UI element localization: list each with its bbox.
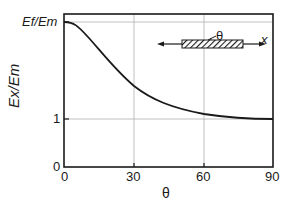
inset-theta-label: θ — [216, 29, 223, 42]
y-tick-1: 1 — [53, 112, 60, 125]
x-tick-0: 0 — [61, 170, 68, 183]
y-top-label: Ef/Em — [22, 15, 57, 28]
x-tick-60: 60 — [196, 170, 210, 183]
chart-canvas — [0, 0, 297, 205]
y-tick-0: 0 — [53, 160, 60, 173]
data-curve — [64, 22, 273, 119]
plot-frame — [64, 14, 273, 167]
fiber-orientation-inset — [157, 36, 266, 48]
y-axis-label: Ex/Em — [6, 64, 21, 108]
inset-x-label: x — [261, 33, 268, 46]
x-tick-90: 90 — [265, 170, 279, 183]
x-axis-label: θ — [162, 186, 170, 200]
gridlines — [64, 14, 273, 167]
x-tick-30: 30 — [126, 170, 140, 183]
